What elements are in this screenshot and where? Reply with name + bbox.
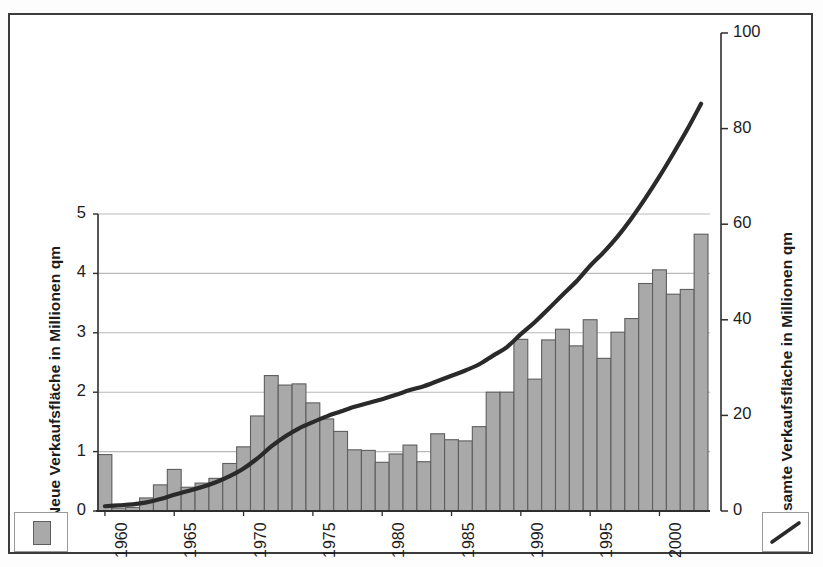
bar <box>680 289 694 511</box>
right-axis-tick-label: 100 <box>733 22 781 41</box>
x-axis-tick-label: 1995 <box>598 522 616 558</box>
bar <box>403 445 417 511</box>
chart-frame: Neue Verkaufsfläche in Millionen qm Gesa… <box>8 13 813 554</box>
bar <box>292 384 306 511</box>
bar <box>500 392 514 511</box>
right-axis-tick-label: 40 <box>733 309 781 328</box>
legend-line-series[interactable] <box>762 512 809 552</box>
chart-canvas <box>10 15 811 552</box>
bar <box>431 434 445 511</box>
left-axis-tick-label: 5 <box>46 203 86 222</box>
bar <box>639 284 653 512</box>
left-axis-tick-label: 3 <box>46 322 86 341</box>
bar <box>458 441 472 511</box>
x-axis-tick-label: 1965 <box>182 522 200 558</box>
screenshot-root: Neue Verkaufsfläche in Millionen qm Gesa… <box>0 0 823 567</box>
bar <box>375 462 389 511</box>
bar <box>98 455 112 511</box>
bar <box>223 463 237 511</box>
bar <box>694 234 708 511</box>
right-axis-title: Gesamte Verkaufsfläche in Millionen qm <box>778 232 796 532</box>
bar <box>542 340 556 511</box>
x-axis-tick-label: 2000 <box>667 522 685 558</box>
bar <box>556 329 570 511</box>
x-axis-tick-label: 1980 <box>390 522 408 558</box>
bar <box>348 450 362 511</box>
bar-series-swatch <box>33 521 51 545</box>
bar <box>417 462 431 511</box>
x-axis-tick-label: 1985 <box>460 522 478 558</box>
bar-series-group <box>98 234 708 511</box>
bar <box>625 319 639 511</box>
right-axis-tick-label: 60 <box>733 213 781 232</box>
bar <box>528 379 542 511</box>
x-axis-tick-label: 1990 <box>529 522 547 558</box>
x-axis-tick-label: 1975 <box>321 522 339 558</box>
bar <box>445 440 459 511</box>
line-series-swatch <box>763 513 808 551</box>
bar <box>361 450 375 511</box>
bar <box>569 346 583 511</box>
bar <box>320 419 334 511</box>
left-axis-tick-label: 1 <box>46 441 86 460</box>
right-axis-tick-label: 20 <box>733 404 781 423</box>
bar <box>611 332 625 511</box>
x-axis-tick-label: 1960 <box>113 522 131 558</box>
bar <box>514 339 528 511</box>
bar <box>334 431 348 511</box>
bar <box>167 469 181 511</box>
left-axis-tick-label: 2 <box>46 381 86 400</box>
right-axis-ticks-group <box>721 33 728 511</box>
bar <box>486 392 500 511</box>
bar <box>597 358 611 511</box>
bar <box>472 427 486 511</box>
left-axis-tick-label: 4 <box>46 262 86 281</box>
x-axis-tick-label: 1970 <box>252 522 270 558</box>
bar <box>278 385 292 511</box>
legend-bar-series[interactable] <box>14 512 68 552</box>
right-axis-tick-label: 80 <box>733 118 781 137</box>
bar <box>237 447 251 511</box>
bar <box>666 294 680 511</box>
bar <box>583 320 597 511</box>
bar <box>389 454 403 511</box>
bar <box>653 270 667 511</box>
